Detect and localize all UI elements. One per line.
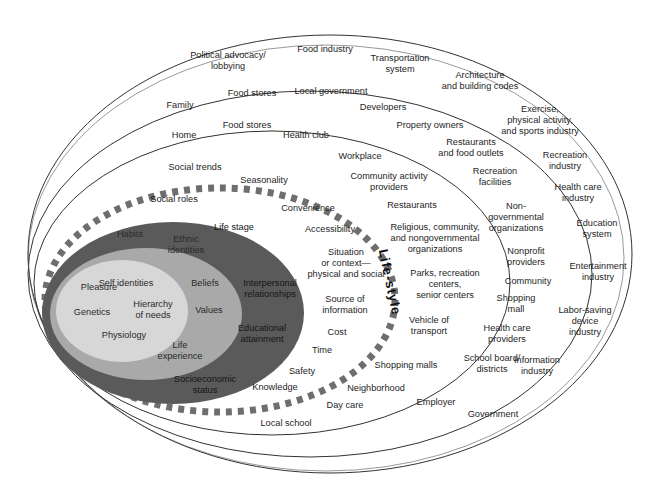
macro-environment-label: Information industry <box>514 355 560 377</box>
physical-setting-label: Religious, community, and nongovernmenta… <box>390 222 479 255</box>
macro-environment-label: Education system <box>577 218 618 240</box>
social-environment-label: Shopping mall <box>497 293 536 315</box>
middle-ring-label: Beliefs <box>191 278 219 289</box>
social-environment-label: Local government <box>294 86 367 97</box>
core-label: Hierarchy of needs <box>133 299 172 321</box>
dark-ring-label: Interpersonal relationships <box>243 278 297 300</box>
social-environment-label: Employer <box>417 397 456 408</box>
physical-setting-label: Restaurants <box>387 200 437 211</box>
lifestyle-ring-label: Time <box>312 345 332 356</box>
physical-setting-label: Parks, recreation centers, senior center… <box>410 268 479 301</box>
macro-environment-label: Political advocacy/ lobbying <box>190 50 266 72</box>
lifestyle-ring-label: Seasonality <box>240 175 288 186</box>
middle-ring-label: Habits <box>117 229 143 240</box>
social-environment-label: Developers <box>360 102 406 113</box>
core-label: Genetics <box>74 307 110 318</box>
physical-setting-label: Local school <box>260 418 311 429</box>
social-environment-label: Non- governmental organizations <box>488 201 544 234</box>
social-environment-label: Recreation facilities <box>473 166 517 188</box>
physical-setting-label: Home <box>172 130 197 141</box>
dark-ring-label: Socioeconomic status <box>174 374 236 396</box>
social-environment-label: Food stores <box>228 88 277 99</box>
lifestyle-ring-label: Social trends <box>168 162 221 173</box>
middle-ring-label: Values <box>195 305 222 316</box>
macro-environment-label: Transportation system <box>371 53 430 75</box>
social-environment-label: Nonprofit providers <box>507 246 545 268</box>
macro-environment-label: Labor-saving device industry <box>558 305 611 338</box>
lifestyle-ring-label: Cost <box>328 327 347 338</box>
social-environment-label: Property owners <box>397 120 464 131</box>
social-environment-label: Health care providers <box>484 323 531 345</box>
lifestyle-ring-label: Convenience <box>281 203 335 214</box>
social-environment-label: Family <box>166 100 193 111</box>
macro-environment-label: Government <box>468 409 519 420</box>
physical-setting-label: Day care <box>327 400 364 411</box>
macro-environment-label: Entertainment industry <box>569 261 626 283</box>
lifestyle-ring-label: Source of information <box>322 294 367 316</box>
dark-ring-label: Social roles <box>150 194 198 205</box>
macro-environment-label: Architecture and building codes <box>442 70 519 92</box>
social-environment-label: Community <box>505 276 551 287</box>
physical-setting-label: Health club <box>283 130 329 141</box>
middle-ring-label: Ethnic identities <box>168 234 204 256</box>
dark-ring-label: Life stage <box>214 222 254 233</box>
lifestyle-ring-label: Knowledge <box>252 382 297 393</box>
diagram-canvas <box>0 0 651 489</box>
lifestyle-ring-label: Accessibility <box>305 224 355 235</box>
social-environment-label: School board/ districts <box>464 353 521 375</box>
physical-setting-label: Neighborhood <box>347 383 405 394</box>
macro-environment-label: Exercise, physical activity, and sports … <box>501 104 579 137</box>
lifestyle-ring-label: Situation or context— physical and socia… <box>307 247 384 280</box>
dark-ring-label: Educational attainment <box>238 323 286 345</box>
physical-setting-label: Vehicle of transport <box>409 315 449 337</box>
lifestyle-ring-label: Safety <box>289 366 315 377</box>
core-label: Physiology <box>102 330 146 341</box>
physical-setting-label: Community activity providers <box>350 171 427 193</box>
macro-environment-label: Health care industry <box>555 182 602 204</box>
middle-ring-label: Life experience <box>158 340 203 362</box>
core-label: Pleasure <box>81 282 117 293</box>
physical-setting-label: Workplace <box>338 151 381 162</box>
physical-setting-label: Food stores <box>223 120 272 131</box>
macro-environment-label: Recreation industry <box>543 150 587 172</box>
macro-environment-label: Food industry <box>297 44 353 55</box>
physical-setting-label: Shopping malls <box>375 360 438 371</box>
social-environment-label: Restaurants and food outlets <box>438 137 503 159</box>
